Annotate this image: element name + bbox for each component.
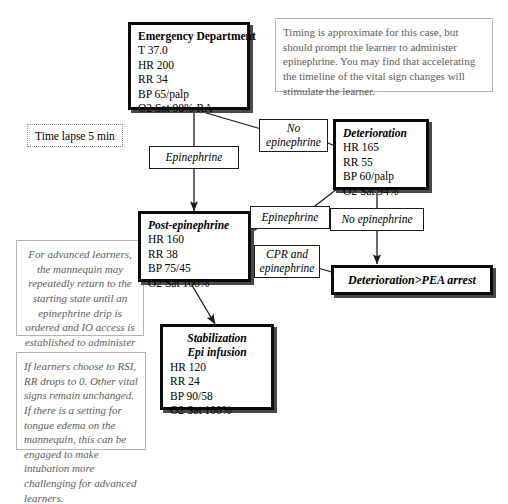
stabilization-title-line2: Epi infusion [170,345,264,359]
post-epinephrine-title: Post-epinephrine [148,218,241,232]
deterioration-title: Deterioration [343,126,419,140]
state-emergency-department[interactable]: Emergency Department T 37.0 HR 200 RR 34… [128,22,250,110]
edge-label-epinephrine-from-deterioration-text: Epinephrine [262,211,319,225]
edge-label-cpr-and-epinephrine-line1: CPR and [266,248,308,262]
edge-label-no-epinephrine-from-ed-line1: No [287,122,300,136]
ed-vital-hr: HR 200 [138,58,240,72]
ed-vital-o2sat: O2 Sat 98% RA [138,101,240,115]
note-advanced-learners-text: For advanced learners, the mannequin may… [24,247,136,364]
edge-label-cpr-and-epinephrine-line2: epinephrine [260,262,315,276]
post-epi-vital-hr: HR 160 [148,232,241,246]
pea-arrest-label: Deterioration>PEA arrest [348,273,476,288]
post-epi-vital-bp: BP 75/45 [148,261,241,275]
edge-label-epinephrine-from-ed[interactable]: Epinephrine [149,146,239,169]
emergency-department-title: Emergency Department [138,29,240,43]
edge-label-no-epinephrine-from-deterioration-text: No epinephrine [341,213,412,227]
state-post-epinephrine[interactable]: Post-epinephrine HR 160 RR 38 BP 75/45 O… [138,211,251,282]
edge-label-no-epinephrine-from-ed-line2: epinephrine [266,136,321,150]
state-stabilization[interactable]: Stabilization Epi infusion HR 120 RR 24 … [160,324,274,410]
state-pea-arrest[interactable]: Deterioration>PEA arrest [331,265,493,295]
note-rsi: If learners choose to RSI, RR drops to 0… [16,352,146,450]
ed-vital-rr: RR 34 [138,72,240,86]
note-rsi-text: If learners choose to RSI, RR drops to 0… [24,359,138,504]
stabilization-vital-o2sat: O2 Sat 100% [170,403,264,417]
note-timing: Timing is approximate for this case, but… [275,18,493,92]
note-advanced-learners: For advanced learners, the mannequin may… [16,240,144,336]
deterioration-vital-bp: BP 60/palp [343,169,419,183]
edge-label-no-epinephrine-from-ed[interactable]: No epinephrine [259,119,328,152]
deterioration-vital-rr: RR 55 [343,155,419,169]
deterioration-vital-o2sat: O2 Sat 94% [343,184,419,198]
state-deterioration[interactable]: Deterioration HR 165 RR 55 BP 60/palp O2… [333,119,429,190]
note-timing-text: Timing is approximate for this case, but… [283,25,485,98]
post-epi-vital-o2sat: O2 Sat 100% [148,276,241,290]
flowchart-canvas: Timing is approximate for this case, but… [0,0,508,504]
deterioration-vital-hr: HR 165 [343,140,419,154]
edge-label-no-epinephrine-from-deterioration[interactable]: No epinephrine [330,208,424,231]
stabilization-vital-hr: HR 120 [170,360,264,374]
edge-label-epinephrine-from-ed-text: Epinephrine [166,151,223,165]
ed-vital-bp: BP 65/palp [138,87,240,101]
stabilization-title-line1: Stabilization [170,331,264,345]
post-epi-vital-rr: RR 38 [148,247,241,261]
stabilization-vital-rr: RR 24 [170,374,264,388]
stabilization-vital-bp: BP 90/58 [170,389,264,403]
edge-label-cpr-and-epinephrine[interactable]: CPR and epinephrine [254,245,320,278]
ed-vital-temp: T 37.0 [138,43,240,57]
time-lapse-label: Time lapse 5 min [35,130,115,142]
edge-label-epinephrine-from-deterioration[interactable]: Epinephrine [250,206,330,229]
time-lapse-box: Time lapse 5 min [27,124,123,147]
